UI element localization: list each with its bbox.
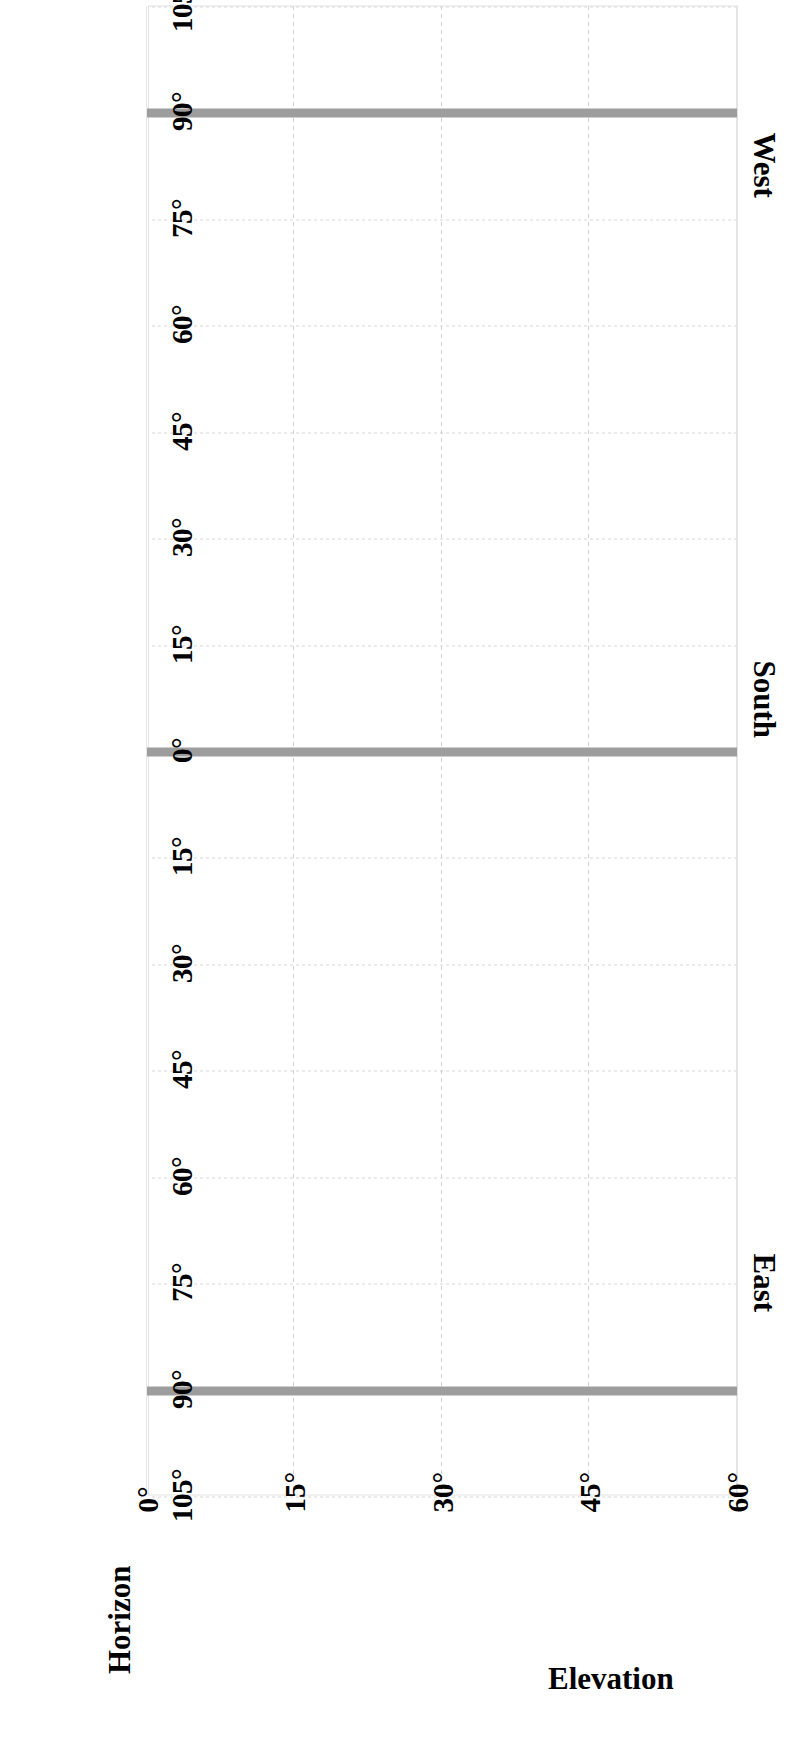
azimuth-gridline — [149, 219, 737, 220]
elevation-tick-label: 30° — [427, 1392, 460, 1512]
azimuth-gridline — [149, 1070, 737, 1071]
region-label-south: South — [746, 660, 782, 738]
elevation-tick-label: 15° — [280, 1392, 313, 1512]
azimuth-gridline — [149, 645, 737, 646]
sun-path-trace — [147, 108, 737, 117]
azimuth-tick-label: 60° — [166, 264, 199, 384]
region-label-west: West — [746, 132, 782, 197]
azimuth-gridline — [149, 432, 737, 433]
elevation-tick-label: 60° — [722, 1392, 755, 1512]
region-label-east: East — [746, 1253, 782, 1312]
azimuth-tick-label: 15° — [166, 796, 199, 916]
azimuth-tick-label: 30° — [166, 477, 199, 597]
azimuth-gridline — [149, 1177, 737, 1178]
azimuth-tick-label: 75° — [166, 158, 199, 278]
azimuth-gridline — [149, 1283, 737, 1284]
azimuth-tick-label: 15° — [166, 584, 199, 704]
azimuth-tick-label: 0° — [166, 690, 199, 810]
x-axis-title: Horizon — [102, 1565, 138, 1674]
azimuth-tick-label: 30° — [166, 903, 199, 1023]
elevation-tick-label: 45° — [575, 1392, 608, 1512]
elevation-tick-label: 0° — [132, 1392, 165, 1512]
azimuth-tick-label: 45° — [166, 1009, 199, 1129]
azimuth-tick-label: 90° — [166, 1329, 199, 1449]
azimuth-tick-label: 105° — [166, 1435, 199, 1555]
azimuth-gridline — [149, 857, 737, 858]
azimuth-gridline — [149, 325, 737, 326]
y-axis-title: Elevation — [548, 1660, 674, 1696]
azimuth-gridline — [149, 964, 737, 965]
azimuth-gridline — [149, 6, 737, 7]
azimuth-tick-label: 90° — [166, 51, 199, 171]
plot-area — [148, 5, 738, 1495]
rotated-figure-stage: 105°90°75°60°45°30°15°0°15°30°45°60°75°9… — [0, 0, 798, 1751]
azimuth-tick-label: 45° — [166, 371, 199, 491]
azimuth-tick-label: 60° — [166, 1116, 199, 1236]
azimuth-gridline — [149, 538, 737, 539]
sun-path-trace — [147, 747, 737, 756]
azimuth-tick-label: 75° — [166, 1222, 199, 1342]
